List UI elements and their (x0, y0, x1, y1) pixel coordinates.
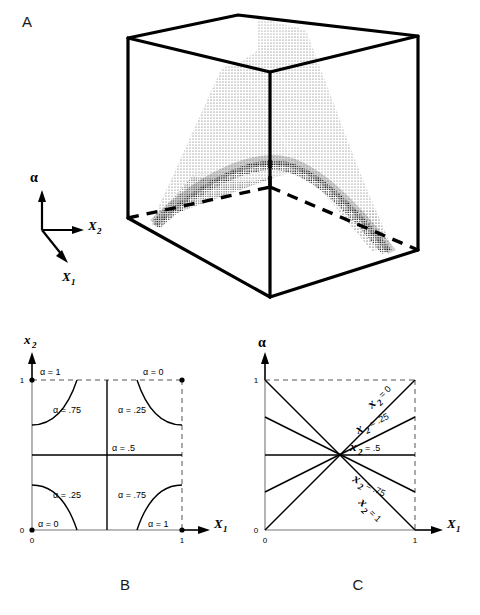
x2-axis-label: X (87, 218, 97, 233)
panel-b-corner-dot-bottom-right (179, 527, 184, 532)
panel-b-y-axis-label-subscript: 2 (31, 340, 37, 350)
panel-b-label-alpha-75-lower-right: α = .75 (118, 490, 146, 500)
panel-b-label-alpha-half-center: α = .5 (112, 443, 135, 453)
panel-c-label-x2-25: x 2 = .25 (352, 408, 393, 440)
x1-axis-label-subscript: 1 (71, 277, 76, 287)
panel-b-label-alpha-1-bottom-right: α = 1 (148, 519, 168, 529)
panel-b-letter: B (120, 576, 130, 593)
panel-c-xtick-0: 0 (263, 536, 268, 545)
panel-b-y-axis-arrow-head (28, 352, 36, 364)
panel-c-letter: C (353, 576, 364, 593)
panel-b-ytick-0: 0 (20, 526, 25, 535)
panel-b: x 2 X 1 1 0 0 1 (20, 332, 228, 593)
panel-b-contour-75-upper-left (32, 380, 77, 425)
panel-b-label-alpha-25-lower-left: α = .25 (53, 490, 81, 500)
panel-b-corner-dot-top-right (179, 377, 184, 382)
x1-axis-arrow-shaft (42, 230, 62, 255)
panel-c-label-x2-5-value: = .5 (365, 443, 380, 453)
panel-b-x-axis-label-subscript: 1 (223, 524, 228, 534)
panel-c-label-x2-5-base: x (349, 439, 357, 454)
panel-b-corner-dot-bottom-left (29, 527, 34, 532)
panel-b-xtick-1: 1 (180, 536, 185, 545)
x2-axis-arrow-head (72, 226, 84, 234)
panel-b-contour-25-upper-right (137, 380, 182, 425)
panel-b-label-alpha-0-bottom-left: α = 0 (38, 519, 58, 529)
panel-c-label-x2-0-value: = 0 (377, 384, 393, 400)
figure-root: A α X 2 X 1 (0, 0, 480, 615)
panel-b-x-axis-arrow-head (198, 526, 210, 534)
panel-b-label-alpha-0-top-right: α = 0 (143, 367, 163, 377)
panel-c-y-axis-arrow-head (261, 352, 269, 364)
panel-c-label-x2-5-sub: 2 (357, 447, 363, 457)
panel-a-axis-triad: α X 2 X 1 (30, 170, 102, 287)
panel-c-ytick-1: 1 (254, 376, 259, 385)
panel-c-x-axis-label: X (446, 516, 456, 531)
panel-b-label-alpha-75-upper-left: α = .75 (53, 405, 81, 415)
panel-b-label-alpha-25-upper-right: α = .25 (118, 405, 146, 415)
panel-b-y-axis-label: x (23, 332, 31, 347)
panel-c: α X 1 1 0 0 1 x 2 (254, 335, 461, 593)
panel-b-corner-dot-top-left (29, 377, 34, 382)
panel-b-label-alpha-1-top-left: α = 1 (40, 367, 60, 377)
panel-c-ytick-0: 0 (254, 526, 259, 535)
panel-c-label-x2-1: x 2 = 1 (353, 494, 386, 527)
panel-a: A α X 2 X 1 (22, 10, 430, 297)
panel-c-label-x2-1-value: = 1 (367, 508, 383, 524)
panel-b-ytick-1: 1 (20, 376, 25, 385)
panel-c-x-axis-arrow-head (431, 526, 443, 534)
panel-c-xtick-1: 1 (413, 536, 418, 545)
alpha-axis-arrow-head (38, 190, 46, 202)
x2-axis-label-subscript: 2 (96, 226, 102, 236)
panel-b-x-axis-label: X (213, 516, 223, 531)
alpha-axis-label: α (30, 170, 38, 185)
panel-c-y-axis-label: α (258, 335, 266, 350)
panel-c-label-x2-0: x 2 = 0 (363, 381, 396, 414)
panel-b-xtick-0: 0 (30, 536, 35, 545)
figure-canvas: A α X 2 X 1 (0, 0, 480, 615)
panel-c-label-x2-25-value: = .25 (368, 411, 391, 429)
x1-axis-arrow-head (56, 250, 68, 263)
x1-axis-label: X (61, 269, 71, 284)
panel-c-x-axis-label-subscript: 1 (456, 524, 461, 534)
panel-a-letter: A (22, 13, 32, 30)
